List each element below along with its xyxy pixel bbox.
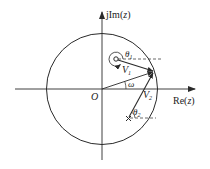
v1-label: V1 — [122, 64, 131, 76]
omega-label: ω — [128, 79, 134, 89]
z-plane-diagram: jIm(z) Re(z) O θ1 V1 ω V2 θ2 — [0, 0, 210, 169]
origin-label: O — [91, 91, 98, 102]
theta2-label: θ2 — [133, 107, 140, 118]
real-axis-label: Re(z) — [173, 95, 195, 107]
v2-label: V2 — [143, 89, 152, 101]
theta1-label: θ1 — [125, 49, 132, 60]
imag-axis-label: jIm(z) — [105, 9, 130, 21]
omega-angle-arc — [125, 82, 126, 90]
pole-marker — [126, 116, 131, 121]
diagram-svg: jIm(z) Re(z) O θ1 V1 ω V2 θ2 — [0, 0, 210, 169]
zero-marker — [114, 57, 118, 61]
